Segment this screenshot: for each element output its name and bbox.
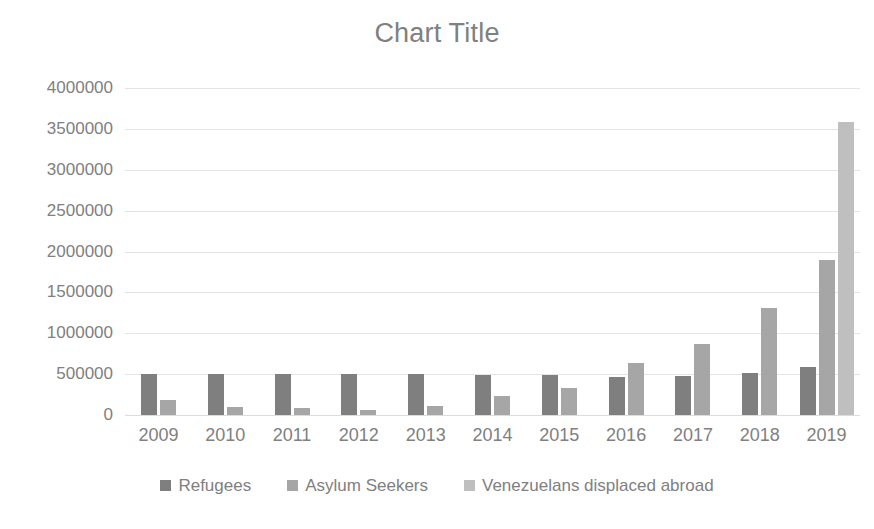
legend-item[interactable]: Asylum Seekers — [287, 476, 428, 495]
bar-group — [392, 88, 459, 415]
x-axis-tick-label: 2009 — [125, 424, 192, 446]
bar-group — [526, 88, 593, 415]
y-axis-tick-label: 2500000 — [0, 202, 113, 219]
bar[interactable] — [275, 374, 291, 415]
x-axis-tick-label: 2019 — [793, 424, 860, 446]
x-axis-tick-label: 2011 — [259, 424, 326, 446]
bar[interactable] — [141, 374, 157, 415]
bar[interactable] — [542, 375, 558, 415]
bar-group — [726, 88, 793, 415]
bar[interactable] — [819, 260, 835, 415]
legend-label: Asylum Seekers — [305, 476, 428, 495]
y-axis-tick-label: 0 — [0, 406, 113, 423]
y-axis-tick-label: 1500000 — [0, 283, 113, 300]
bars-layer — [125, 88, 860, 415]
bar[interactable] — [609, 377, 625, 415]
bar[interactable] — [694, 344, 710, 415]
bar[interactable] — [742, 373, 758, 416]
y-axis: 4000000350000030000002500000200000015000… — [0, 88, 113, 415]
legend-swatch-icon — [160, 480, 171, 491]
bar-chart: Chart Title 4000000350000030000002500000… — [0, 0, 874, 529]
y-axis-tick-label: 500000 — [0, 365, 113, 382]
bar-group — [325, 88, 392, 415]
y-axis-tick-label: 2000000 — [0, 243, 113, 260]
x-axis: 2009201020112012201320142015201620172018… — [125, 424, 860, 450]
bar[interactable] — [761, 308, 777, 415]
chart-title: Chart Title — [0, 18, 874, 49]
bar[interactable] — [160, 400, 176, 415]
bar-group — [192, 88, 259, 415]
x-axis-tick-label: 2016 — [593, 424, 660, 446]
bar[interactable] — [800, 367, 816, 415]
bar-group — [793, 88, 860, 415]
x-axis-tick-label: 2010 — [192, 424, 259, 446]
y-axis-tick-label: 3500000 — [0, 120, 113, 137]
legend-label: Venezuelans displaced abroad — [482, 476, 714, 495]
bar[interactable] — [475, 375, 491, 415]
y-axis-tick-label: 1000000 — [0, 324, 113, 341]
bar[interactable] — [561, 388, 577, 415]
bar[interactable] — [360, 410, 376, 415]
x-axis-tick-label: 2014 — [459, 424, 526, 446]
bar-group — [593, 88, 660, 415]
legend-swatch-icon — [464, 480, 475, 491]
bar[interactable] — [494, 396, 510, 415]
bar-group — [459, 88, 526, 415]
legend-item[interactable]: Refugees — [160, 476, 251, 495]
x-axis-tick-label: 2013 — [392, 424, 459, 446]
bar[interactable] — [675, 376, 691, 415]
bar[interactable] — [341, 374, 357, 415]
bar-group — [660, 88, 727, 415]
bar[interactable] — [408, 374, 424, 415]
bar[interactable] — [227, 407, 243, 415]
legend-item[interactable]: Venezuelans displaced abroad — [464, 476, 714, 495]
bar[interactable] — [208, 374, 224, 415]
legend-label: Refugees — [178, 476, 251, 495]
legend-swatch-icon — [287, 480, 298, 491]
bar-group — [259, 88, 326, 415]
y-axis-tick-label: 3000000 — [0, 161, 113, 178]
bar[interactable] — [628, 363, 644, 415]
x-axis-tick-label: 2018 — [726, 424, 793, 446]
bar[interactable] — [294, 408, 310, 415]
bar-group — [125, 88, 192, 415]
x-axis-tick-label: 2012 — [325, 424, 392, 446]
x-axis-tick-label: 2017 — [660, 424, 727, 446]
x-axis-tick-label: 2015 — [526, 424, 593, 446]
y-axis-tick-label: 4000000 — [0, 79, 113, 96]
bar[interactable] — [838, 122, 854, 415]
bar[interactable] — [427, 406, 443, 415]
chart-legend: RefugeesAsylum SeekersVenezuelans displa… — [0, 476, 874, 495]
axis-baseline — [125, 415, 860, 416]
